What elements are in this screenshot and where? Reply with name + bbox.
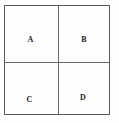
quadrant-label-a: A	[4, 36, 57, 44]
quadrant-label-c: C	[3, 96, 56, 104]
quadrant-box: A B C D	[4, 5, 110, 115]
quadrant-label-d: D	[58, 94, 108, 102]
quadrant-figure: A B C D	[0, 0, 119, 123]
quadrant-cell-b: B	[59, 6, 109, 62]
quadrant-cell-a: A	[5, 6, 58, 62]
quadrant-cell-d: D	[59, 63, 109, 114]
quadrant-label-b: B	[59, 36, 109, 44]
quadrant-cell-c: C	[5, 63, 58, 114]
